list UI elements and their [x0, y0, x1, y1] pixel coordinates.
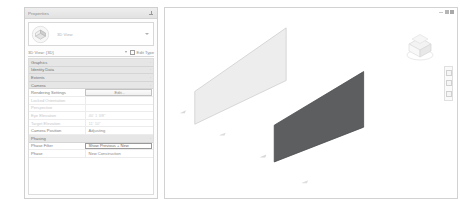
zoom-icon[interactable] — [446, 80, 452, 86]
property-key: Graphics — [29, 60, 85, 65]
view-edit-type-bar: 3D View: {3D} Edit Type — [28, 48, 154, 57]
property-value[interactable]: 40' 1 3/8" — [85, 112, 153, 119]
level-marker-4[interactable] — [302, 180, 308, 183]
3d-view-canvas[interactable] — [164, 7, 458, 199]
3d-view-thumbnail-icon — [31, 25, 50, 44]
property-key: Phasing — [29, 136, 85, 141]
pan-icon[interactable] — [446, 91, 452, 97]
properties-titlebar: Properties — [25, 8, 157, 19]
property-row[interactable]: Locked Orientation — [29, 97, 153, 105]
property-group-header[interactable]: Graphics· — [29, 59, 153, 67]
edit-button[interactable]: Edit... — [85, 89, 152, 96]
revit-application-window: Properties 3D View 3D View: {3D} Edit Ty… — [0, 0, 460, 206]
properties-palette: Properties 3D View 3D View: {3D} Edit Ty… — [24, 7, 158, 199]
property-value[interactable] — [85, 97, 153, 104]
steering-wheel-icon[interactable] — [446, 70, 452, 76]
group-collapse-toggle[interactable]: · — [148, 60, 153, 65]
property-row[interactable]: Camera PositionAdjusting — [29, 127, 153, 135]
property-key: Identity Data — [29, 67, 85, 72]
property-row[interactable]: Phase FilterShow Previous + New — [29, 143, 153, 151]
group-collapse-toggle[interactable]: · — [148, 67, 153, 72]
navigation-bar[interactable] — [444, 66, 453, 101]
view-cube[interactable] — [401, 28, 439, 66]
wall-light[interactable] — [195, 28, 286, 124]
property-rows-container[interactable]: Graphics·Identity Data·Extents·Camera·Re… — [28, 58, 154, 195]
property-key: Extents — [29, 75, 85, 80]
property-row[interactable]: Perspective — [29, 105, 153, 113]
property-group-header[interactable]: Extents· — [29, 74, 153, 82]
property-group-header[interactable]: Phasing· — [29, 135, 153, 143]
property-key: Phase Filter — [29, 143, 85, 148]
properties-title: Properties — [28, 11, 149, 16]
property-group-header[interactable]: Identity Data· — [29, 67, 153, 75]
level-marker-1[interactable] — [180, 110, 186, 113]
wall-dark[interactable] — [274, 72, 363, 162]
group-collapse-toggle[interactable]: · — [148, 136, 153, 141]
property-value[interactable] — [85, 105, 153, 112]
chevron-down-icon[interactable] — [145, 33, 149, 35]
property-value[interactable]: Show Previous + New — [85, 143, 152, 150]
property-row[interactable]: Eye Elevation40' 1 3/8" — [29, 112, 153, 120]
property-key: Perspective — [29, 105, 85, 110]
level-marker-3[interactable] — [260, 154, 266, 157]
property-value[interactable]: Adjusting — [85, 127, 153, 134]
property-value[interactable]: 11' 10" — [85, 120, 153, 127]
type-selector-label: 3D View — [57, 32, 145, 37]
type-selector[interactable]: 3D View — [28, 22, 154, 46]
property-key: Locked Orientation — [29, 98, 85, 103]
edit-type-icon — [130, 50, 135, 55]
property-key: Rendering Settings — [29, 90, 85, 95]
group-collapse-toggle[interactable]: · — [148, 83, 153, 88]
edit-type-button[interactable]: Edit Type — [137, 50, 154, 55]
property-key: Camera — [29, 83, 85, 88]
view-name-label: 3D View: {3D} — [28, 50, 125, 55]
property-group-header[interactable]: Camera· — [29, 82, 153, 90]
property-key: Eye Elevation — [29, 113, 85, 118]
property-key: Phase — [29, 151, 85, 156]
property-value[interactable]: New Construction — [85, 150, 153, 157]
property-key: Camera Position — [29, 128, 85, 133]
chevron-down-icon[interactable] — [125, 51, 127, 53]
property-row[interactable]: PhaseNew Construction — [29, 150, 153, 158]
property-row[interactable]: Target Elevation11' 10" — [29, 120, 153, 128]
property-row[interactable]: Rendering SettingsEdit... — [29, 89, 153, 97]
group-collapse-toggle[interactable]: · — [148, 75, 153, 80]
pin-icon[interactable] — [149, 10, 154, 16]
level-marker-2[interactable] — [220, 133, 226, 136]
property-key: Target Elevation — [29, 121, 85, 126]
